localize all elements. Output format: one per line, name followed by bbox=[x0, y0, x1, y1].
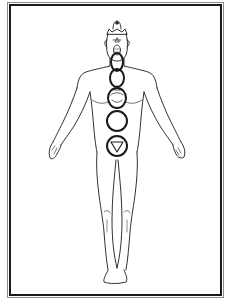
head bbox=[105, 21, 130, 61]
chakra-figure-illustration bbox=[0, 0, 231, 304]
chakra-column bbox=[107, 53, 127, 156]
chakra-details bbox=[111, 86, 123, 152]
torso-outline bbox=[77, 58, 157, 152]
legs bbox=[97, 152, 138, 284]
right-arm bbox=[144, 88, 185, 158]
left-arm bbox=[49, 88, 90, 159]
